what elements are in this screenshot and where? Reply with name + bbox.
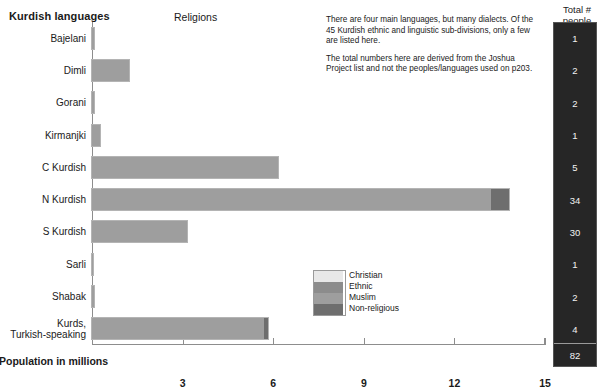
legend-swatch — [314, 282, 343, 293]
bar-segment-muslim — [92, 221, 187, 242]
page-title: Kurdish languages — [9, 10, 110, 22]
x-tick-label-9: 9 — [361, 377, 367, 389]
category-label: Sarli — [66, 259, 86, 270]
totals-column: 82 122153430124 — [553, 22, 597, 367]
people-group-count: 2 — [554, 98, 596, 109]
category-label: Kurds,Turkish-speaking — [10, 318, 86, 340]
category-label: N Kurdish — [42, 194, 86, 205]
legend: ChristianEthnicMuslimNon-religious — [313, 270, 346, 316]
bar-row: Kurds,Turkish-speaking — [92, 318, 545, 339]
bar-segment-non-religious — [264, 318, 268, 339]
category-label: Kirmanjki — [45, 130, 86, 141]
bar-segment-muslim — [92, 92, 94, 113]
legend-label: Non-religious — [349, 303, 399, 313]
people-group-count: 1 — [554, 130, 596, 141]
bar-row: N Kurdish — [92, 189, 545, 210]
people-group-count: 1 — [554, 33, 596, 44]
bar-row: S Kurdish — [92, 221, 545, 242]
legend-item: Muslim — [314, 293, 343, 304]
bar-row: Dimli — [92, 60, 545, 81]
legend-label: Christian — [349, 270, 383, 280]
category-label: C Kurdish — [42, 162, 86, 173]
x-axis-label: Population in millions — [0, 355, 108, 367]
bar-segment-muslim — [92, 254, 93, 275]
stacked-bar — [92, 125, 100, 146]
bar-segment-muslim — [92, 157, 278, 178]
bar-segment-muslim — [92, 60, 129, 81]
people-group-count: 1 — [554, 259, 596, 270]
legend-item: Christian — [314, 271, 343, 282]
category-label: S Kurdish — [43, 226, 86, 237]
x-tick-label-12: 12 — [449, 377, 461, 389]
x-tick-label-6: 6 — [270, 377, 276, 389]
bar-segment-muslim — [92, 125, 100, 146]
bar-segment-muslim — [92, 286, 94, 307]
people-group-count: 4 — [554, 324, 596, 335]
stacked-bar — [92, 254, 93, 275]
bar-segment-muslim — [92, 28, 94, 49]
people-group-count: 5 — [554, 162, 596, 173]
stacked-bar — [92, 28, 94, 49]
bar-row: Gorani — [92, 92, 545, 113]
totals-title-line-1: Total # — [549, 4, 605, 15]
bar-segment-muslim — [92, 189, 491, 210]
legend-item: Ethnic — [314, 282, 343, 293]
stacked-bar — [92, 286, 94, 307]
bar-segment-muslim — [92, 318, 264, 339]
stacked-bar — [92, 60, 129, 81]
stacked-bar — [92, 318, 268, 339]
x-tick-label-15: 15 — [539, 377, 551, 389]
bar-row: Kirmanjki — [92, 125, 545, 146]
x-axis-line — [92, 344, 545, 345]
bar-row: Bajelani — [92, 28, 545, 49]
stacked-bar — [92, 221, 187, 242]
people-group-count: 2 — [554, 65, 596, 76]
x-tick-15 — [545, 338, 546, 345]
bar-segment-non-religious — [491, 189, 509, 210]
category-label: Bajelani — [50, 33, 86, 44]
stacked-bar — [92, 157, 278, 178]
legend-label: Ethnic — [349, 281, 373, 291]
stacked-bar — [92, 189, 509, 210]
totals-sum: 82 — [554, 343, 596, 366]
legend-item: Non-religious — [314, 304, 343, 315]
legend-swatch — [314, 304, 343, 315]
category-label: Shabak — [52, 291, 86, 302]
stacked-bar — [92, 92, 94, 113]
people-group-count: 34 — [554, 195, 596, 206]
bar-row: C Kurdish — [92, 157, 545, 178]
x-tick-label-3: 3 — [180, 377, 186, 389]
people-group-count: 30 — [554, 227, 596, 238]
legend-swatch — [314, 293, 343, 304]
legend-swatch — [314, 271, 343, 282]
legend-label: Muslim — [349, 292, 376, 302]
people-group-count: 2 — [554, 292, 596, 303]
category-label: Gorani — [56, 97, 86, 108]
category-label: Dimli — [64, 65, 86, 76]
